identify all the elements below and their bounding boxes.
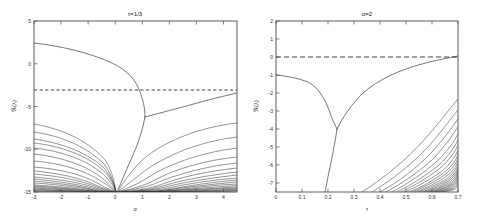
chart-left-xtick-label-3: 0: [114, 194, 117, 200]
chart-panel-left: τ=1/3: [0, 0, 244, 220]
chart-right-title: α=2: [362, 10, 373, 17]
chart-right-xtick-label-6: 0.6: [429, 194, 436, 200]
chart-right-xtick-label-4: 0.4: [377, 194, 384, 200]
chart-right-ytick-label-m5: -5: [269, 144, 274, 150]
chart-right-ytick-label-2: 2: [270, 18, 273, 24]
chart-panel-right: α=2: [244, 0, 488, 220]
chart-right-yaxis-label: ℜ(λ): [253, 100, 259, 112]
chart-right-ytick-label-m3: -3: [269, 108, 274, 114]
chart-left-xtick-label-6: 3: [195, 194, 198, 200]
chart-right-svg: α=2: [244, 0, 488, 220]
chart-left-title: τ=1/3: [128, 10, 143, 17]
chart-right-ytick-label-m7: -7: [269, 180, 274, 186]
chart-right-ytick-label-1: 1: [270, 36, 273, 42]
chart-left-xtick-label-7: 4: [222, 194, 225, 200]
chart-left-xtick-label-5: 2: [168, 194, 171, 200]
chart-left-xaxis-label: α: [133, 206, 137, 212]
chart-left-svg: τ=1/3: [0, 0, 244, 220]
chart-left-plot-area: [34, 21, 237, 192]
chart-right-ytick-label-m2: -2: [269, 90, 274, 96]
chart-left-xtick-label-1: -2: [59, 194, 64, 200]
chart-right-ytick-label-m6: -6: [269, 162, 274, 168]
chart-left-ytick-label-5: 5: [28, 18, 31, 24]
chart-right-xtick-label-5: 0.5: [403, 194, 410, 200]
chart-right-xaxis-label: τ: [366, 206, 369, 212]
chart-left-ytick-label-0: 0: [28, 61, 31, 67]
chart-right-xtick-label-1: 0.1: [299, 194, 306, 200]
chart-left-xtick-label-0: -3: [32, 194, 37, 200]
chart-right-ytick-label-m1: -1: [269, 72, 274, 78]
chart-right-ytick-label-m4: -4: [269, 126, 274, 132]
figure-container: τ=1/3: [0, 0, 488, 220]
chart-left-ytick-label-m10: -10: [24, 146, 31, 152]
chart-left-xtick-label-2: -1: [86, 194, 91, 200]
chart-right-ytick-label-0: 0: [270, 54, 273, 60]
chart-right-xtick-label-2: 0.2: [325, 194, 332, 200]
chart-right-xtick-label-0: 0: [275, 194, 278, 200]
chart-left-ytick-label-m5: -5: [27, 104, 32, 110]
chart-left-ytick-label-m15: -15: [24, 189, 31, 195]
chart-left-yaxis-label: ℜ(λ): [11, 100, 17, 112]
chart-right-xtick-label-7: 0.7: [455, 194, 462, 200]
chart-left-xtick-label-4: 1: [141, 194, 144, 200]
chart-right-xtick-label-3: 0.3: [351, 194, 358, 200]
